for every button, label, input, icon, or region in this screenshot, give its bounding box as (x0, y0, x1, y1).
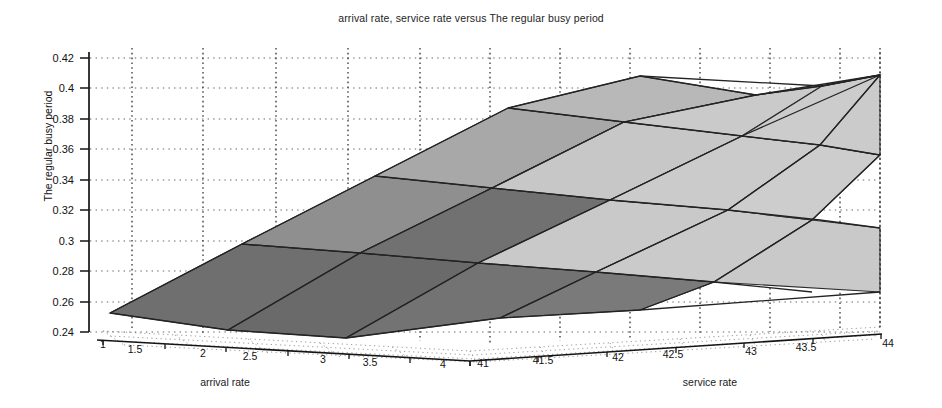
x-tick-label: 3 (303, 353, 343, 365)
y-tick-label: 43.5 (786, 341, 826, 353)
x-tick-label: 3.5 (350, 356, 390, 368)
z-axis-title: The regular busy period (42, 46, 54, 246)
x-tick-label: 2 (183, 347, 223, 359)
y-tick-label: 44 (868, 337, 908, 349)
x-tick-label: 4 (423, 358, 463, 370)
z-tick-label: 0.28 (30, 265, 74, 277)
y-axis-title-service-rate: service rate (640, 376, 780, 388)
y-tick-label: 42.5 (653, 348, 693, 360)
y-tick-label: 42 (598, 351, 638, 363)
y-tick-label: 43 (731, 345, 771, 357)
x-axis-title-arrival-rate: arrival rate (155, 376, 295, 388)
x-tick-label: 1.5 (115, 343, 155, 355)
x-tick-label: 2.5 (230, 350, 270, 362)
z-tick-label: 0.26 (30, 296, 74, 308)
y-tick-label: 41 (463, 357, 503, 369)
y-tick-label: 41.5 (523, 354, 563, 366)
z-tick-label: 0.24 (30, 326, 74, 338)
figure-canvas: arrival rate, service rate versus The re… (0, 0, 942, 408)
